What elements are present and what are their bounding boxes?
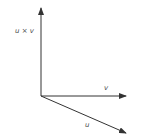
u-arrow [41, 96, 126, 133]
u-cross-v-label: u × v [15, 28, 34, 35]
u-label: u [85, 122, 89, 129]
v-label: v [104, 85, 108, 92]
cross-product-diagram: u × v v u [0, 0, 141, 140]
vector-axes [0, 0, 141, 140]
